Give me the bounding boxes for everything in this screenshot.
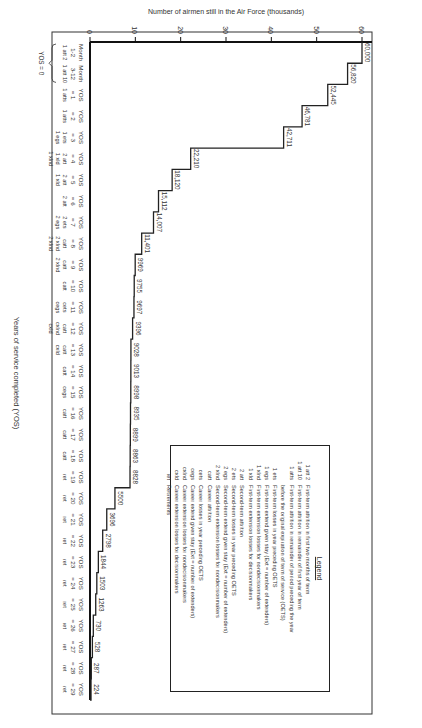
legend-description: First-term extension losses for nondecis… [255, 485, 263, 610]
category-code-label: 1 egs [55, 131, 61, 145]
category-top-label: YOS [78, 301, 85, 314]
category-code-label: 2 att [62, 153, 68, 164]
legend-code: 2 xlnd [214, 452, 222, 485]
category-code-label: cegs [62, 386, 68, 398]
category-code-label: 1 atts [62, 88, 68, 102]
y-tick-label: 10 [131, 26, 138, 34]
category-top-label: YOS [78, 343, 85, 356]
category-code-label: 2 ets [62, 216, 68, 228]
value-label: 8863 [132, 449, 139, 464]
legend-code: cets [197, 452, 205, 485]
value-label: 56,820 [350, 64, 357, 84]
category-top-label: YOS [78, 555, 85, 568]
legend-description: First-term losses in year preceding OETS [271, 485, 279, 588]
value-label: 9396 [135, 322, 142, 337]
category-value-label: = 10 [70, 280, 77, 293]
legend-code: 1 ets [271, 452, 279, 485]
category-code-label: 2 egs [55, 216, 61, 230]
legend: Legend 1 att 2First-term attrition in fi… [170, 445, 330, 692]
y-tick-label: 50 [313, 26, 320, 34]
category-top-label: YOS [78, 152, 85, 165]
legend-code: 2 att [238, 452, 246, 485]
category-code-label: catt [62, 430, 68, 439]
category-code-label: ret [62, 474, 68, 481]
category-top-label: YOS [78, 640, 85, 653]
category-top-label: Month [78, 44, 85, 62]
legend-description: Second-term extend given stay (Ext = num… [222, 485, 230, 633]
legend-code: 1 att 10 [296, 452, 304, 485]
legend-description: Career extend given stay (Ext = number o… [189, 485, 197, 618]
value-label: 1263 [98, 597, 105, 612]
category-value-label: = 13 [70, 344, 77, 357]
category-value-label: = 18 [70, 450, 77, 463]
category-top-label: YOS [78, 577, 85, 590]
rotated-chart-stage: 0102030405060Number of airmen still in t… [0, 0, 422, 728]
category-code-label: 2 att [62, 175, 68, 186]
legend-entry: cegsCareer extend given stay (Ext = numb… [189, 452, 197, 685]
legend-entry: 1 xldFirst-term extension losses for dec… [246, 452, 254, 685]
value-label: 528 [94, 642, 101, 653]
category-code-label: catt [62, 324, 68, 333]
value-label: 1844 [100, 555, 107, 570]
legend-code: 1 atts [287, 452, 295, 485]
category-value-label: = 1 [70, 91, 77, 100]
category-code-label: cegs [55, 301, 61, 313]
category-code-label: 1 xlnd [48, 151, 54, 166]
y-tick-label: 0 [86, 30, 93, 34]
legend-description: Career extension losses for decisionmake… [173, 485, 181, 594]
category-code-label: ret [62, 644, 68, 651]
value-label: 9697 [136, 300, 143, 315]
category-code-label: ret [62, 495, 68, 502]
legend-entry: cxldCareer extension losses for decision… [173, 452, 181, 685]
legend-code: 1 xlnd [255, 452, 263, 485]
category-top-label: YOS [78, 598, 85, 611]
category-value-label: = 17 [70, 429, 77, 442]
y-tick-label: 20 [177, 26, 184, 34]
category-code-label: 2 xlnd [55, 257, 61, 272]
category-code-label: ret [62, 665, 68, 672]
category-top-label: YOS [78, 386, 85, 399]
legend-description: Career losses in year preceding OETS [197, 485, 205, 581]
legend-entry: 2 etsSecond-term losses in year precedin… [230, 452, 238, 685]
category-value-label: = 12 [70, 322, 77, 335]
value-label: 8935 [133, 406, 140, 421]
legend-entry: 1 attsFirst-term attrition in remainder … [287, 452, 295, 685]
category-value-label: = 3 [70, 133, 77, 142]
legend-description: First-term attrition in remainder of fir… [296, 485, 304, 610]
category-top-label: YOS [78, 258, 85, 271]
category-code-label: ret [62, 516, 68, 523]
legend-entry: 2 attSecond-term attrition [238, 452, 246, 685]
category-value-label: = 22 [70, 535, 77, 548]
category-top-label: Month [78, 65, 85, 83]
category-top-label: YOS [78, 428, 85, 441]
legend-code: 2 egs [222, 452, 230, 485]
category-top-label: YOS [78, 89, 85, 102]
category-code-label: 1 att 2 [62, 45, 68, 61]
category-value-label: = 21 [70, 513, 77, 526]
value-label: 9028 [133, 343, 140, 358]
category-top-label: YOS [78, 364, 85, 377]
value-label: 9755 [136, 279, 143, 294]
category-code-label: catt [62, 239, 68, 248]
category-code-label: catt [62, 282, 68, 291]
legend-description: Retirements [164, 485, 172, 515]
value-label: 42,711 [286, 128, 293, 147]
value-label: 224 [93, 684, 100, 695]
legend-code: 1 att 2 [304, 452, 312, 485]
category-code-label: 1 xld [55, 174, 61, 186]
y-axis-title: Number of airmen still in the Air Force … [148, 8, 304, 16]
legend-entry: 2 egsSecond-term extend given stay (Ext … [222, 452, 230, 685]
category-code-label: 1 ets [62, 131, 68, 143]
legend-entry: cattCareer attrition [205, 452, 213, 685]
category-code-label: catt [62, 366, 68, 375]
category-code-label: 1 atts [62, 109, 68, 123]
category-labels: Month1-21 att 2Month3-121 att 10YOS= 11 … [38, 44, 85, 696]
legend-entry: 1 att 10First-term attrition in remainde… [296, 452, 304, 685]
category-value-label: = 15 [70, 386, 77, 399]
category-top-label: YOS [78, 513, 85, 526]
category-value-label: 1-2 [70, 48, 77, 58]
category-top-label: YOS [78, 492, 85, 505]
category-value-label: = 9 [70, 260, 77, 269]
category-top-label: YOS [78, 173, 85, 186]
category-code-label: 1 att 10 [62, 65, 68, 84]
